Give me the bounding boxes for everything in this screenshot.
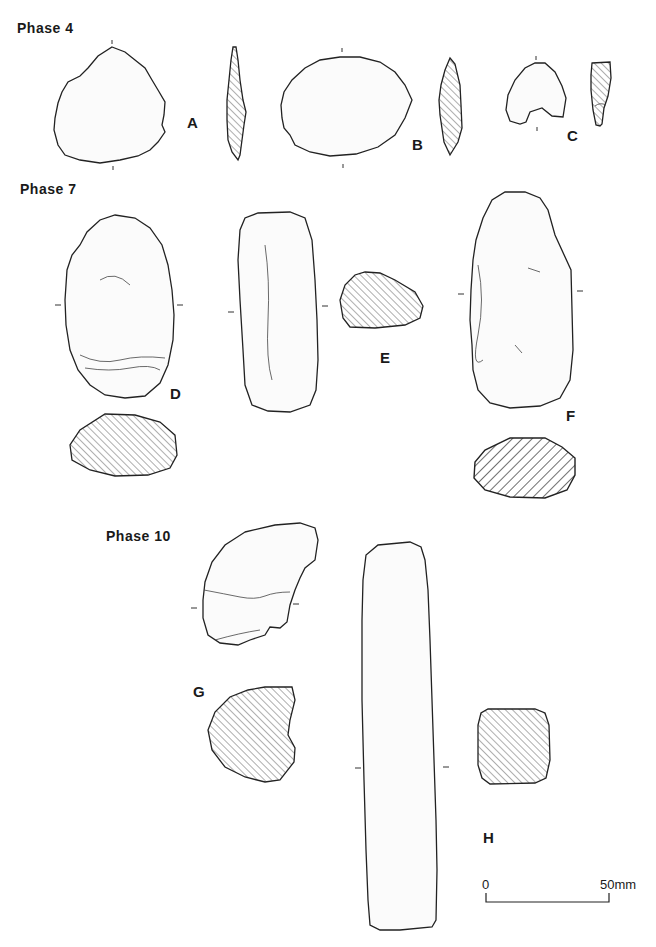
phase-4-heading: Phase 4 [17,20,73,36]
artifact-b-section [439,58,462,155]
label-d: D [170,385,181,402]
label-c: C [567,127,578,144]
artifact-d-plan [55,215,183,398]
label-b: B [412,136,423,153]
label-e: E [380,349,390,366]
figure-artwork [0,0,656,947]
artifact-f-section [474,438,575,498]
artifact-e-section [340,272,423,328]
artifact-g-plan [191,523,318,645]
scale-bar [486,893,609,902]
phase-10-heading: Phase 10 [106,528,171,544]
artifact-a-section [227,47,246,160]
artifact-d-section [70,414,177,476]
artifact-a-plan [54,40,165,170]
artifact-f-plan [458,192,583,408]
label-f: F [566,407,575,424]
label-a: A [187,114,198,131]
artifact-c-section [591,62,611,126]
artifact-b-plan [281,48,412,168]
label-g: G [193,683,205,700]
artifact-g-section [208,687,295,782]
label-h: H [483,829,494,846]
scale-end-label: 50mm [600,877,636,892]
scale-start-label: 0 [482,877,489,892]
artifact-c-plan [506,56,566,131]
phase-7-heading: Phase 7 [20,181,76,197]
artifact-h-section [478,709,550,784]
artifact-e-plan [228,212,328,412]
artifact-h-plan [355,542,449,930]
